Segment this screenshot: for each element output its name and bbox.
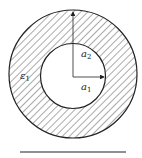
annulus-diagram: a2 a1 ε1 bbox=[0, 0, 142, 158]
